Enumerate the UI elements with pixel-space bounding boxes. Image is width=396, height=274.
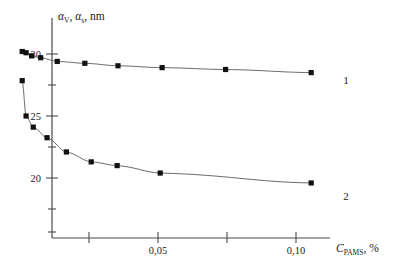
x-axis-title: CPAMS, % — [336, 242, 379, 257]
data-point-s1-4 — [55, 59, 60, 64]
series-line-1 — [22, 52, 311, 73]
x-axis-title-tail: , % — [363, 242, 379, 255]
x-tick-label-005: 0,05 — [149, 245, 167, 256]
y-tick-label-25: 25 — [31, 111, 42, 122]
x-axis-title-sub: PAMS — [344, 248, 364, 257]
y-axis-title-tail: , nm — [84, 10, 105, 23]
data-point-s2-8 — [309, 180, 314, 185]
data-point-s1-7 — [160, 65, 165, 70]
y-tick-label-20: 20 — [31, 173, 42, 184]
series-layer — [20, 49, 314, 186]
data-point-s2-2 — [31, 125, 36, 130]
data-point-s1-8 — [223, 67, 228, 72]
chart-plot-area: 30 25 20 0,05 0,10 αV, αs, nm CPAMS, % 1… — [0, 0, 396, 274]
data-point-s1-1 — [23, 50, 28, 55]
data-point-s1-6 — [115, 63, 120, 68]
series-line-2 — [22, 81, 311, 183]
chart-container: 30 25 20 0,05 0,10 αV, αs, nm CPAMS, % 1… — [0, 0, 396, 274]
data-point-s2-1 — [23, 113, 28, 118]
curve-2-label: 2 — [343, 190, 349, 202]
data-point-s1-2 — [29, 53, 34, 58]
data-point-s2-5 — [89, 159, 94, 164]
data-point-s1-9 — [309, 70, 314, 75]
y-axis-title: αV, αs, nm — [58, 10, 105, 25]
data-point-s2-0 — [20, 78, 25, 83]
data-point-s1-5 — [82, 61, 87, 66]
data-point-s2-7 — [158, 170, 163, 175]
data-point-s2-6 — [115, 163, 120, 168]
data-point-s1-3 — [38, 55, 43, 60]
curve-1-label: 1 — [343, 74, 349, 86]
data-point-s2-3 — [44, 135, 49, 140]
data-point-s2-4 — [64, 149, 69, 154]
x-tick-label-010: 0,10 — [287, 245, 305, 256]
